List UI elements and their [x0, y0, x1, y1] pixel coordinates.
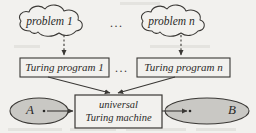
box-turing-program-1-label: Turing program 1 — [20, 62, 109, 74]
machine-label-line1: universal — [75, 99, 162, 110]
edge-programn-to-machine — [118, 77, 175, 93]
box-turing-program-n-label: Turing program n — [137, 62, 230, 74]
turing-machine-diagram: problem 1 problem n ... Turing program 1… — [0, 0, 256, 133]
cloud-ellipsis: ... — [110, 16, 124, 31]
set-b-label: B — [224, 103, 240, 117]
cloud-problem-1-label: problem 1 — [0, 15, 99, 27]
program-ellipsis: ... — [115, 61, 129, 76]
edge-program1-to-machine — [48, 77, 110, 93]
set-b-element-dot — [189, 110, 192, 113]
set-a-element-dot — [43, 110, 46, 113]
cloud-problem-n-label: problem n — [122, 15, 221, 27]
set-a-label: A — [22, 103, 38, 117]
machine-label-line2: Turing machine — [75, 112, 162, 123]
